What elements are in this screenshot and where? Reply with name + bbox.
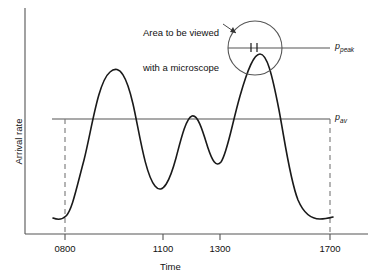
microscope-annotation: Area to be viewed with a microscope	[143, 4, 219, 96]
annotation-line-1: Area to be viewed	[143, 27, 219, 39]
x-tick-label-0800: 0800	[54, 243, 75, 254]
x-axis-title: Time	[160, 261, 181, 272]
p-peak-subscript: peak	[340, 46, 354, 53]
y-axis-title: Arrival rate	[13, 102, 24, 182]
p-av-label: pav	[335, 112, 347, 124]
p-av-subscript: av	[340, 117, 347, 124]
x-axis-ticks	[65, 234, 330, 240]
x-tick-label-1700: 1700	[319, 243, 340, 254]
annotation-line-2: with a microscope	[143, 62, 219, 74]
x-tick-label-1300: 1300	[209, 243, 230, 254]
p-peak-label: ppeak	[335, 41, 354, 53]
x-tick-label-1100: 1100	[153, 243, 173, 254]
arrival-rate-figure: Area to be viewed with a microscope Arri…	[0, 0, 372, 280]
